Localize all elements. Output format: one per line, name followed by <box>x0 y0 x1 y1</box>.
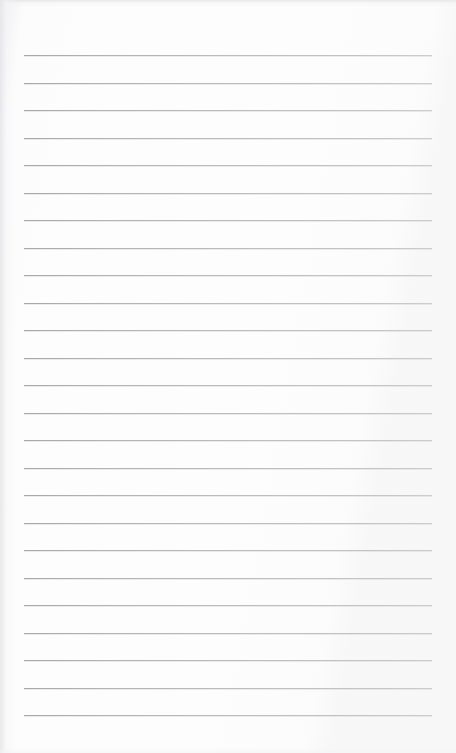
writing-area[interactable] <box>24 55 432 698</box>
notepad-page <box>0 0 456 753</box>
ruled-line <box>24 715 432 716</box>
